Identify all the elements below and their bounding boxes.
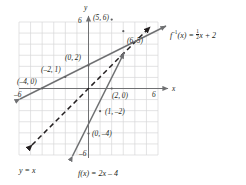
f-inverse-equation-label: f–1(x) = 12x + 2 <box>170 29 216 41</box>
point-label-0-neg4: (0, –4) <box>92 130 112 137</box>
tick-y-6: 6 <box>78 17 82 24</box>
point-label-neg2-1: (–2, 1) <box>41 66 61 73</box>
f-inverse-tail: x + 2 <box>199 31 216 40</box>
point-label-neg4-0: (–4, 0) <box>17 78 37 85</box>
tick-y-neg6: –6 <box>79 150 86 157</box>
point-label-5-6: (5, 6) <box>93 14 109 21</box>
x-axis-label: x <box>172 85 175 92</box>
tick-x-neg6: –6 <box>14 91 21 98</box>
point-label-1-neg2: (1, –2) <box>105 108 125 115</box>
tick-x-6: 6 <box>152 91 156 98</box>
graph-figure: x y 6 –6 –6 6 (5, 6) (6, 5) (0, 2) (–2, … <box>0 0 246 185</box>
point-label-6-5: (6, 5) <box>127 37 143 44</box>
f-inverse-arg: (x) = <box>178 31 196 40</box>
y-axis-label: y <box>84 4 87 11</box>
point-label-2-0: (2, 0) <box>112 92 128 99</box>
point-label-0-2: (0, 2) <box>65 54 81 61</box>
f-equation-label: f(x) = 2x – 4 <box>78 170 118 178</box>
identity-equation-label: y = x <box>19 167 36 175</box>
